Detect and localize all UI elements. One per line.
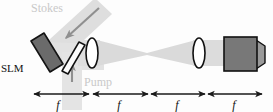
focal-length-label-3: f [175, 98, 180, 112]
lens-1-component [86, 38, 98, 68]
detector-component [224, 37, 265, 71]
stokes-label: Stokes [31, 1, 63, 15]
diverging-beam [147, 40, 196, 66]
optical-diagram-figure: Stokes Pump SLM f f f f [0, 0, 273, 112]
focal-length-label-2: f [117, 98, 122, 112]
focal-length-label-4: f [232, 98, 237, 112]
optical-diagram-canvas: Stokes Pump SLM f f f f [0, 0, 273, 112]
detector-front-face [224, 37, 257, 71]
slm-label: SLM [1, 62, 24, 74]
converging-beam [97, 40, 147, 66]
focal-length-label-1: f [56, 98, 61, 112]
lens-2-component [193, 38, 205, 68]
pump-label: Pump [84, 75, 112, 89]
